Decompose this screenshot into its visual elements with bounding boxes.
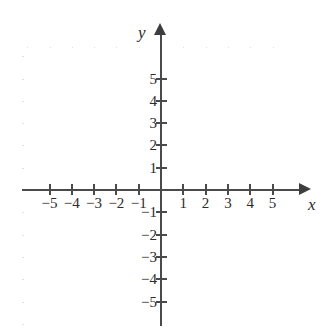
x-axis-tick-label: −2: [108, 196, 124, 211]
y-axis-tick-label: 2: [150, 138, 158, 153]
x-axis-tick: [205, 184, 207, 195]
x-axis-tick: [227, 184, 229, 195]
x-axis-tick: [138, 184, 140, 195]
y-axis-tick: [156, 100, 167, 102]
y-axis-tick-label: −2: [141, 227, 157, 242]
y-axis-tick-label: 5: [150, 71, 158, 86]
x-axis-tick: [272, 184, 274, 195]
y-axis-tick-label: 4: [150, 93, 158, 108]
y-axis-tick: [156, 256, 167, 258]
coordinate-plane: −5−4−3−2−11234554321−1−2−3−4−5 x y: [0, 0, 324, 335]
y-axis-tick: [156, 234, 167, 236]
x-axis-tick-label: −5: [42, 196, 58, 211]
x-axis-tick: [71, 184, 73, 195]
x-axis-tick: [115, 184, 117, 195]
x-axis-tick-label: −3: [86, 196, 102, 211]
y-axis-tick: [156, 167, 167, 169]
y-axis-tick: [156, 301, 167, 303]
x-axis-tick-label: −4: [64, 196, 80, 211]
x-axis-tick: [182, 184, 184, 195]
y-axis-tick-label: −3: [141, 249, 157, 264]
x-axis-tick-label: 4: [246, 196, 254, 211]
y-axis-tick: [156, 122, 167, 124]
y-axis-tick: [156, 78, 167, 80]
y-axis-tick: [156, 144, 167, 146]
x-axis-tick-label: 1: [180, 196, 188, 211]
y-axis-tick-label: −1: [141, 205, 157, 220]
y-axis-tick: [156, 211, 167, 213]
x-axis-tick-label: 5: [269, 196, 277, 211]
x-axis-tick: [49, 184, 51, 195]
y-axis-tick-label: −4: [141, 272, 157, 287]
y-axis-tick-label: 1: [150, 160, 158, 175]
y-axis-line: [160, 30, 162, 326]
y-axis-tick-label: 3: [150, 116, 158, 131]
y-axis-tick: [156, 278, 167, 280]
y-axis-label: y: [138, 24, 146, 41]
x-axis-tick: [93, 184, 95, 195]
x-axis-tick-label: 2: [202, 196, 210, 211]
y-axis-arrow-icon: [154, 23, 166, 35]
x-axis-arrow-icon: [299, 183, 311, 195]
x-axis-tick: [249, 184, 251, 195]
x-axis-label: x: [308, 196, 316, 213]
y-axis-tick-label: −5: [141, 294, 157, 309]
grid-line-horizontal: [22, 56, 290, 57]
x-axis-line: [22, 189, 306, 191]
x-axis-tick-label: 3: [224, 196, 232, 211]
